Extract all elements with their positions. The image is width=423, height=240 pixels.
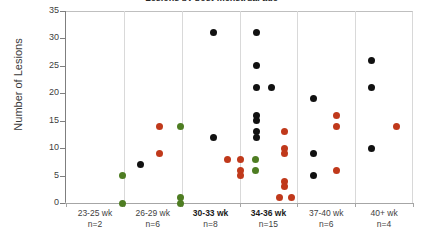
category-week-label: 26-29 wk [124, 208, 182, 219]
category-separator [355, 11, 356, 203]
data-point-red [393, 123, 400, 130]
data-point-green [177, 200, 184, 207]
y-axis-tick [60, 38, 65, 39]
y-axis-tick-label: 25 [33, 60, 59, 70]
data-point-green [119, 200, 126, 207]
category-week-label: 40+ wk [355, 208, 413, 219]
data-point-black [253, 134, 260, 141]
data-point-red [156, 123, 163, 130]
x-axis-tick [297, 203, 298, 207]
x-axis-tick [66, 203, 67, 207]
category-separator [297, 11, 298, 203]
y-axis-tick-label: 5 [33, 170, 59, 180]
category-count-label: n=4 [355, 219, 413, 230]
x-axis-category-26-29-wk: 26-29 wkn=6 [124, 208, 182, 230]
category-count-label: n=2 [66, 219, 124, 230]
category-count-label: n=8 [182, 219, 240, 230]
category-week-label: 23-25 wk [66, 208, 124, 219]
x-axis-category-34-36-wk: 34-36 wkn=15 [240, 208, 298, 230]
x-axis-tick [240, 203, 241, 207]
y-axis-tick-label: 0 [33, 197, 59, 207]
y-axis-tick [60, 66, 65, 67]
data-point-red [333, 112, 340, 119]
y-axis-tick [60, 93, 65, 94]
category-week-label: 30-33 wk [182, 208, 240, 219]
data-point-red [237, 156, 244, 163]
category-count-label: n=15 [240, 219, 298, 230]
x-axis-tick [413, 203, 414, 207]
category-separator [182, 11, 183, 203]
y-axis-tick-label: 35 [33, 5, 59, 15]
data-point-black [368, 145, 375, 152]
x-axis-tick [355, 203, 356, 207]
chart-title: Lesions by post-menstrual age [0, 0, 423, 1]
y-axis-title: Number of Lesions [12, 25, 25, 145]
category-week-label: 37-40 wk [297, 208, 355, 219]
y-axis-tick [60, 203, 65, 204]
x-axis-category-23-25-wk: 23-25 wkn=2 [66, 208, 124, 230]
data-point-black [210, 134, 217, 141]
y-axis-tick-label: 20 [33, 87, 59, 97]
category-week-label: 34-36 wk [240, 208, 298, 219]
x-axis-category-30-33-wk: 30-33 wkn=8 [182, 208, 240, 230]
y-axis-tick-label: 15 [33, 115, 59, 125]
y-axis-tick-label: 10 [33, 142, 59, 152]
y-axis-tick-label: 30 [33, 32, 59, 42]
x-axis-category-37-40-wk: 37-40 wkn=6 [297, 208, 355, 230]
data-point-red [333, 123, 340, 130]
data-point-red [333, 167, 340, 174]
y-axis-tick [60, 11, 65, 12]
data-point-green [177, 123, 184, 130]
y-axis-tick [60, 176, 65, 177]
data-point-black [368, 57, 375, 64]
scatter-chart: Lesions by post-menstrual age Number of … [0, 0, 423, 240]
data-point-black [137, 161, 144, 168]
category-count-label: n=6 [297, 219, 355, 230]
y-axis-tick [60, 121, 65, 122]
data-point-green [252, 156, 259, 163]
y-axis-tick [60, 148, 65, 149]
category-count-label: n=6 [124, 219, 182, 230]
x-axis-category-40-wk: 40+ wkn=4 [355, 208, 413, 230]
data-point-green [252, 167, 259, 174]
data-point-red [288, 194, 295, 201]
